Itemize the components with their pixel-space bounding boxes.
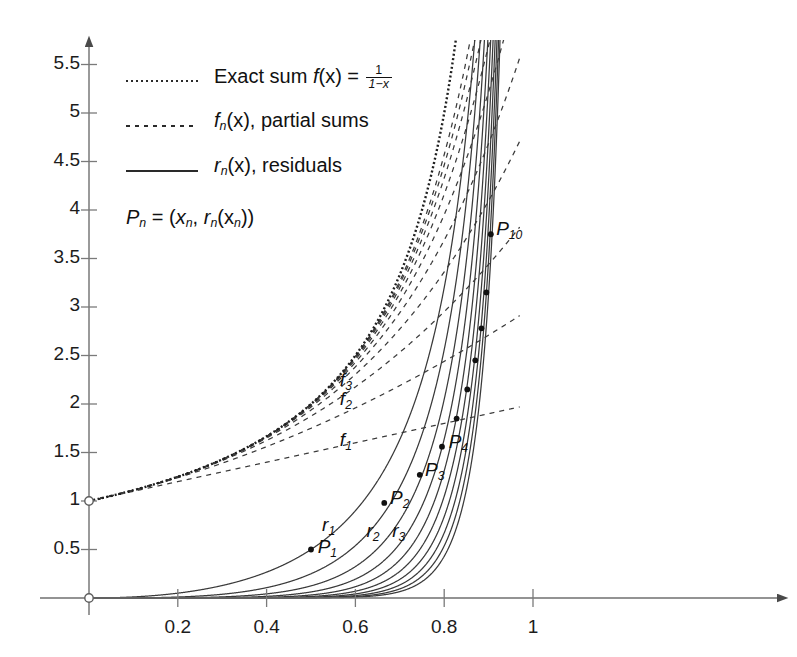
x-tick-label: 0.8: [414, 616, 474, 638]
legend-label-residuals: rn(x), residuals: [214, 154, 342, 178]
f1-label: f1: [340, 429, 352, 453]
p10-label: P10: [496, 218, 522, 242]
y-tick-label: 5: [18, 100, 80, 122]
y-tick-label: 2.5: [18, 343, 80, 365]
legend: Exact sum f(x) = 11−x fn(x), partial sum…: [126, 60, 456, 195]
x-tick-label: 1: [503, 616, 563, 638]
marked-point-p7: [472, 357, 478, 363]
p3-label-base: P: [425, 459, 438, 480]
x-tick-label: 0.4: [237, 616, 297, 638]
marked-point-p5: [454, 416, 460, 422]
p1-label-base: P: [318, 536, 331, 557]
y-tick-label: 2: [18, 391, 80, 413]
x-tick-label: 0.6: [325, 616, 385, 638]
legend-entry-partial-sums: fn(x), partial sums: [126, 105, 456, 150]
marked-point-p10: [488, 231, 494, 237]
r2-label-sub: 2: [373, 530, 380, 544]
p1-label: P1: [318, 536, 337, 560]
marked-point-p6: [464, 387, 470, 393]
p4-label: P4: [449, 431, 468, 455]
partial-sum-curve-f3: [89, 227, 520, 501]
p10-label-base: P: [496, 218, 509, 239]
y-tick-label: 1: [18, 488, 80, 510]
p10-label-sub: 10: [509, 228, 523, 242]
r1-label: r1: [322, 514, 335, 538]
p3-label-sub: 3: [438, 469, 445, 483]
x-tick-label: 0.2: [148, 616, 208, 638]
p3-label: P3: [425, 459, 444, 483]
f3-label: f3: [340, 369, 352, 393]
y-tick-label: 3: [18, 294, 80, 316]
p2-label: P2: [390, 487, 409, 511]
geometric-series-convergence-figure: 0.511.522.533.544.555.5 0.20.40.60.81 f1…: [0, 0, 797, 657]
f3-label-sub: 3: [345, 378, 352, 392]
f1-label-sub: 1: [345, 438, 352, 452]
legend-label-partial-sums: fn(x), partial sums: [214, 109, 369, 133]
y-tick-label: 0.5: [18, 537, 80, 559]
y-tick-label: 5.5: [18, 52, 80, 74]
marked-point-p4: [439, 444, 445, 450]
marked-point-p2: [381, 500, 387, 506]
legend-sample-residuals: [126, 170, 198, 172]
marked-point-p3: [417, 472, 423, 478]
legend-label-exact-sum: Exact sum f(x) = 11−x: [214, 64, 393, 92]
open-circle-marker: [85, 594, 93, 602]
p2-label-sub: 2: [403, 497, 410, 511]
marked-point-p9: [483, 290, 489, 296]
marked-point-p8: [479, 325, 485, 331]
p4-label-sub: 4: [461, 440, 468, 454]
p2-label-base: P: [390, 487, 403, 508]
p1-label-sub: 1: [330, 546, 337, 560]
y-tick-label: 1.5: [18, 440, 80, 462]
y-tick-label: 3.5: [18, 246, 80, 268]
f2-label-sub: 2: [345, 398, 352, 412]
point-definition-label: Pn = (xn, rn(xn)): [126, 206, 254, 230]
legend-entry-exact-sum: Exact sum f(x) = 11−x: [126, 60, 456, 105]
legend-sample-exact-sum: [126, 80, 198, 82]
y-tick-label: 4: [18, 197, 80, 219]
r3-label: r3: [392, 520, 405, 544]
r2-label: r2: [367, 520, 380, 544]
marked-point-p1: [308, 547, 314, 553]
legend-sample-partial-sums: [126, 125, 198, 127]
r3-label-sub: 3: [399, 530, 406, 544]
open-circle-marker: [85, 497, 93, 505]
legend-entry-residuals: rn(x), residuals: [126, 150, 456, 195]
y-tick-label: 4.5: [18, 149, 80, 171]
p4-label-base: P: [449, 431, 462, 452]
